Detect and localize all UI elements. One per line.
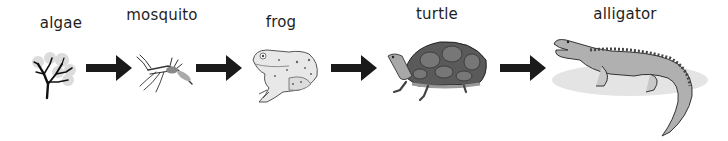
- label-frog: frog: [266, 13, 297, 31]
- label-alligator: alligator: [593, 5, 656, 23]
- algae-icon: [28, 50, 78, 100]
- turtle-icon: [384, 38, 490, 108]
- frog-icon: [249, 46, 323, 106]
- label-mosquito: mosquito: [126, 6, 197, 24]
- arrow-frog-to-turtle: [331, 55, 377, 81]
- label-turtle: turtle: [416, 5, 458, 23]
- arrow-turtle-to-alligator: [500, 55, 546, 81]
- label-algae: algae: [40, 14, 82, 32]
- alligator-icon: [550, 36, 728, 140]
- arrow-algae-to-mosquito: [86, 55, 132, 81]
- arrow-mosquito-to-frog: [196, 55, 242, 81]
- mosquito-icon: [134, 52, 196, 94]
